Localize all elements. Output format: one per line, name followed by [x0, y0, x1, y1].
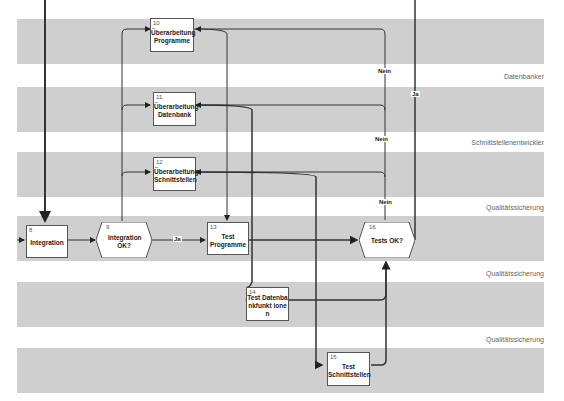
node-11-ueberarbeitung-datenbank[interactable]: 11 Überarbeitung Datenbank [153, 92, 196, 126]
edge-label-ja-integration: Ja [173, 236, 182, 242]
node-8-integration[interactable]: 8 Integration [26, 225, 68, 258]
node-15-test-schnittstellen[interactable]: 15 Test Schnittstellen [327, 352, 370, 386]
edge-label-nein-1: Nein [377, 68, 392, 74]
node-9-integration-ok[interactable]: 9 Integration OK? [96, 222, 152, 258]
node-12-ueberarbeitung-schnittstellen[interactable]: 12 Überarbeitung Schnittstellen [153, 157, 196, 191]
node-14-test-datenbankfunktionen[interactable]: 14 Test Datenbankfunkt ionen [246, 287, 289, 321]
edge-label-nein-2: Nein [374, 136, 389, 142]
node-10-ueberarbeitung-programme[interactable]: 10 Überarbeitung Programme [150, 18, 194, 52]
connector-lines [0, 0, 564, 401]
node-16-tests-ok[interactable]: 16 Tests OK? [359, 222, 415, 258]
edge-label-nein-3: Nein [378, 199, 393, 205]
node-13-test-programme[interactable]: 13 Test Programme [207, 222, 249, 255]
edge-label-ja-tests: Ja [411, 91, 420, 97]
